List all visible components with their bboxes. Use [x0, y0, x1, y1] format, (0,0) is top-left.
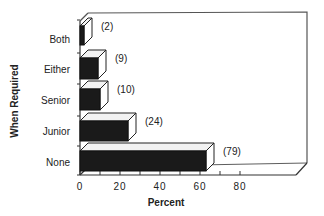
x-tick-label: 80: [233, 181, 246, 192]
x-axis-tick-labels: 020406080: [77, 181, 247, 192]
category-label: Either: [44, 64, 71, 75]
bar-both: [80, 18, 92, 45]
bar-junior: [80, 113, 136, 141]
x-axis-title: Percent: [148, 197, 185, 208]
x-tick-label: 60: [193, 181, 206, 192]
bar-chart: 020406080 BothEitherSeniorJuniorNone (2)…: [0, 0, 324, 216]
x-tick-label: 0: [77, 181, 84, 192]
category-label: Junior: [43, 126, 71, 137]
bar-none: [80, 143, 214, 171]
value-label: (9): [115, 53, 127, 64]
category-labels: BothEitherSeniorJuniorNone: [41, 34, 71, 168]
value-label: (24): [145, 116, 163, 127]
y-axis-title: When Required: [9, 64, 20, 137]
value-label: (10): [117, 84, 135, 95]
value-label: (2): [101, 21, 113, 32]
category-label: Senior: [41, 95, 71, 106]
category-label: Both: [49, 34, 70, 45]
value-label: (79): [223, 146, 241, 157]
x-tick-label: 20: [113, 181, 126, 192]
x-tick-label: 40: [153, 181, 166, 192]
bar-either: [80, 50, 106, 79]
category-label: None: [46, 157, 70, 168]
bar-senior: [80, 81, 108, 110]
bars: [80, 18, 214, 171]
